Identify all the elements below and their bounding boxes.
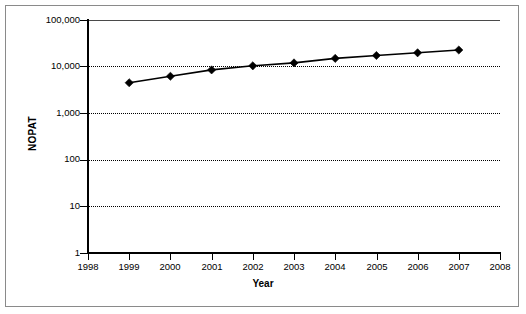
x-axis-tick	[129, 253, 130, 260]
y-axis-tick	[80, 206, 89, 207]
x-axis-tick	[500, 253, 501, 260]
x-axis-tick	[294, 253, 295, 260]
x-axis-tick	[459, 253, 460, 260]
x-axis-tick	[418, 253, 419, 260]
gridline-10000	[88, 66, 500, 67]
x-tick-label: 1998	[65, 261, 111, 272]
x-axis-tick	[170, 253, 171, 260]
gridline-100	[88, 160, 500, 161]
y-tick-label: 10,000	[18, 61, 80, 71]
x-tick-label: 2006	[395, 261, 441, 272]
gridline-1000	[88, 113, 500, 114]
x-axis-title: Year	[0, 278, 526, 289]
x-tick-label: 2002	[230, 261, 276, 272]
x-tick-label: 2008	[477, 261, 523, 272]
y-axis-line	[87, 19, 89, 254]
x-tick-label: 2007	[436, 261, 482, 272]
x-tick-label: 2004	[312, 261, 358, 272]
x-tick-label: 2001	[189, 261, 235, 272]
x-axis-tick	[253, 253, 254, 260]
plot-area	[88, 20, 500, 253]
y-axis-tick	[80, 20, 89, 21]
x-axis-tick	[88, 253, 89, 260]
y-axis-tick	[80, 113, 89, 114]
x-tick-label: 1999	[106, 261, 152, 272]
gridline-10	[88, 206, 500, 207]
y-tick-label: 10	[18, 201, 80, 211]
x-axis-tick	[335, 253, 336, 260]
x-axis-tick	[212, 253, 213, 260]
x-axis-tick	[377, 253, 378, 260]
y-tick-label: 1	[18, 248, 80, 258]
x-tick-label: 2005	[354, 261, 400, 272]
y-axis-title: NOPAT	[27, 94, 38, 174]
y-axis-tick	[80, 160, 89, 161]
y-tick-label: 100,000	[18, 15, 80, 25]
x-tick-label: 2000	[147, 261, 193, 272]
x-tick-label: 2003	[271, 261, 317, 272]
chart-figure: 100,000 10,000 1,000 100 10 1 NOPAT 1998…	[0, 0, 526, 314]
gridline-100000	[88, 20, 500, 21]
y-axis-tick	[80, 66, 89, 67]
